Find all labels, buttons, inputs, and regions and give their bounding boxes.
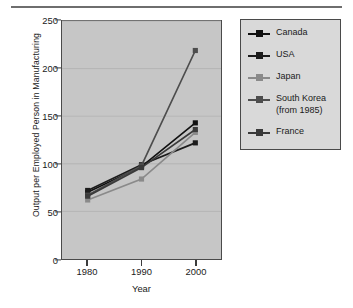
data-point-marker <box>85 194 90 199</box>
x-tick-mark <box>141 260 142 266</box>
y-tick-label: 200 <box>28 63 58 74</box>
data-point-marker <box>193 127 198 132</box>
legend-swatch-icon <box>248 50 270 61</box>
legend-item[interactable]: Canada <box>248 27 340 49</box>
legend-item[interactable]: South Korea (from 1985) <box>248 93 340 126</box>
legend-label: Japan <box>276 71 301 83</box>
x-tick-label: 1980 <box>64 266 110 277</box>
y-axis-title: Output per Employed Person in Manufactur… <box>31 25 41 225</box>
data-point-marker <box>193 120 198 125</box>
plot-svg <box>62 21 221 259</box>
y-tick-label: 0 <box>28 255 58 266</box>
y-tick-label: 250 <box>28 15 58 26</box>
legend-swatch-icon <box>248 72 270 83</box>
chart-figure: Output per Employed Person in Manufactur… <box>0 0 353 308</box>
series-line <box>88 51 196 196</box>
legend-label: USA <box>276 49 295 61</box>
legend-swatch-icon <box>248 127 270 138</box>
plot-area <box>61 20 222 260</box>
y-tick-label: 50 <box>28 207 58 218</box>
y-tick-label: 150 <box>28 111 58 122</box>
legend-label: Canada <box>276 27 308 39</box>
x-tick-mark <box>86 260 87 266</box>
data-point-marker <box>193 48 198 53</box>
legend-swatch-icon <box>248 94 270 105</box>
data-point-marker <box>139 165 144 170</box>
legend-swatch-icon <box>248 28 270 39</box>
x-tick-label: 1990 <box>119 266 165 277</box>
x-tick-label: 2000 <box>173 266 219 277</box>
legend-item[interactable]: France <box>248 126 340 148</box>
series-south-korea-from-1985 <box>85 48 198 198</box>
legend-item[interactable]: Japan <box>248 71 340 93</box>
x-axis-title: Year <box>61 283 222 294</box>
y-tick-label: 100 <box>28 159 58 170</box>
legend-label: France <box>276 126 304 138</box>
chart-legend: CanadaUSAJapanSouth Korea (from 1985)Fra… <box>240 19 341 150</box>
data-point-marker <box>139 176 144 181</box>
data-point-marker <box>85 188 90 193</box>
x-tick-mark <box>195 260 196 266</box>
legend-label: South Korea (from 1985) <box>276 93 326 116</box>
data-point-marker <box>193 140 198 145</box>
legend-item[interactable]: USA <box>248 49 340 71</box>
